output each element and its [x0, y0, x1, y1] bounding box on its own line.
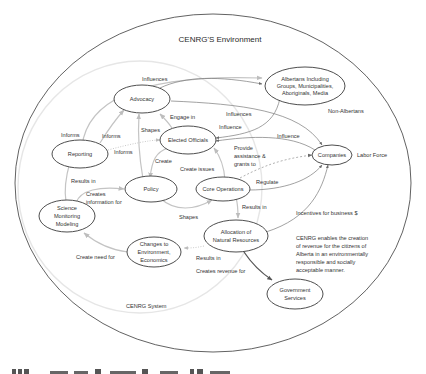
svg-text:Aboriginals, Media: Aboriginals, Media — [282, 90, 329, 96]
label-non-albertans: Non-Albertans — [328, 108, 364, 114]
edge-label-influence-companies: Influence — [277, 133, 300, 139]
label-labor-force: Labor Force — [357, 152, 387, 158]
edge-label-results-in-core: Results in — [242, 204, 267, 210]
edge-science-reporting — [65, 162, 70, 202]
svg-text:of revenue for the citizens of: of revenue for the citizens of — [296, 243, 367, 249]
edge-core-elected — [214, 148, 225, 180]
svg-text:Changes to: Changes to — [140, 241, 169, 247]
svg-text:Reporting: Reporting — [68, 151, 92, 157]
svg-text:Policy: Policy — [144, 186, 159, 192]
edge-label-creates-revenue-for: Creates revenue for — [196, 268, 246, 274]
edge-allocation-companies — [266, 165, 328, 232]
node-government-services[interactable]: Government Services — [267, 279, 323, 309]
label-incentives: Incentives for business $ — [296, 210, 358, 216]
node-albertans[interactable]: Albertans Including Groups, Municipaliti… — [265, 67, 345, 105]
cenrg-note: CENRG enables the creation of revenue fo… — [296, 235, 368, 273]
edge-label-engage-in: Engage in — [170, 114, 195, 120]
svg-text:acceptable manner.: acceptable manner. — [296, 267, 345, 273]
svg-text:Natural Resources: Natural Resources — [213, 237, 260, 243]
svg-text:Monitoring: Monitoring — [54, 213, 80, 219]
edge-label-influences-mid: Influences — [226, 111, 252, 117]
edge-label-provide-1: Provide — [234, 145, 253, 151]
svg-text:Science: Science — [57, 205, 77, 211]
edge-allocation-government — [244, 252, 272, 280]
edge-albertans-elected — [216, 98, 280, 138]
node-advocacy[interactable]: Advocacy — [114, 85, 170, 113]
edge-label-regulate: Regulate — [256, 179, 278, 185]
node-reporting[interactable]: Reporting — [52, 140, 108, 168]
edge-label-provide-3: grants to — [234, 161, 256, 167]
edge-label-influence-albertans: Influence — [219, 124, 242, 130]
edge-policy-core — [160, 198, 212, 208]
edge-policy-advocacy — [138, 114, 143, 179]
svg-text:Alberta in an environmentally: Alberta in an environmentally — [296, 251, 368, 257]
cenrg-diagram: CENRG'S Environment Advocacy Albertans — [0, 0, 426, 374]
svg-text:Government: Government — [280, 287, 311, 293]
edge-changes-science — [84, 233, 128, 252]
edge-label-informs-right: Informs — [114, 149, 133, 155]
edge-label-create-need-for: Create need for — [76, 254, 115, 260]
edge-label-influences-top: Influences — [142, 76, 168, 82]
svg-text:Groups, Municipalities,: Groups, Municipalities, — [277, 83, 334, 89]
svg-text:CENRG enables the creation: CENRG enables the creation — [296, 235, 368, 241]
edge-label-results-in-alloc: Results in — [196, 255, 221, 261]
edge-label-provide-2: assistance & — [234, 153, 266, 159]
edge-label-create: Create — [155, 158, 172, 164]
edge-allocation-changes — [184, 246, 204, 248]
node-policy[interactable]: Policy — [125, 176, 177, 202]
svg-text:Advocacy: Advocacy — [130, 96, 154, 102]
edge-label-informs-left: Informs — [61, 132, 80, 138]
node-allocation[interactable]: Allocation of Natural Resources — [204, 220, 268, 252]
node-changes[interactable]: Changes to Environment, Economics — [127, 237, 181, 267]
svg-text:Albertans Including: Albertans Including — [281, 76, 329, 82]
edge-core-allocation — [236, 198, 238, 218]
edge-label-creates-info-2: information for — [86, 199, 122, 205]
edge-label-results-in-reporting: Results in — [71, 178, 96, 184]
label-system: CENRG System — [126, 303, 167, 309]
svg-text:Economics: Economics — [140, 257, 168, 263]
cut-off-caption — [0, 366, 426, 374]
svg-text:Core Operations: Core Operations — [202, 186, 243, 192]
svg-text:Allocation of: Allocation of — [221, 229, 252, 235]
node-core-operations[interactable]: Core Operations — [196, 177, 250, 201]
svg-text:Companies: Companies — [318, 152, 346, 158]
svg-text:Elected Officials: Elected Officials — [168, 137, 208, 143]
edge-label-shapes-top: Shapes — [141, 127, 160, 133]
node-companies[interactable]: Companies — [312, 145, 352, 165]
svg-text:Modeling: Modeling — [56, 221, 79, 227]
node-elected-officials[interactable]: Elected Officials — [160, 126, 216, 154]
svg-text:responsible and socially: responsible and socially — [296, 259, 356, 265]
edge-label-shapes-bottom: Shapes — [179, 214, 198, 220]
edge-label-create-issues: Create issues — [180, 166, 214, 172]
edge-advocacy-albertans — [160, 78, 262, 88]
edge-companies-elected — [216, 137, 315, 150]
svg-text:Environment,: Environment, — [138, 249, 171, 255]
edge-label-informs-mid: Informs — [102, 133, 121, 139]
edge-label-creates-info-1: Creates — [86, 191, 106, 197]
svg-text:Services: Services — [284, 295, 306, 301]
diagram-title: CENRG'S Environment — [179, 35, 263, 44]
